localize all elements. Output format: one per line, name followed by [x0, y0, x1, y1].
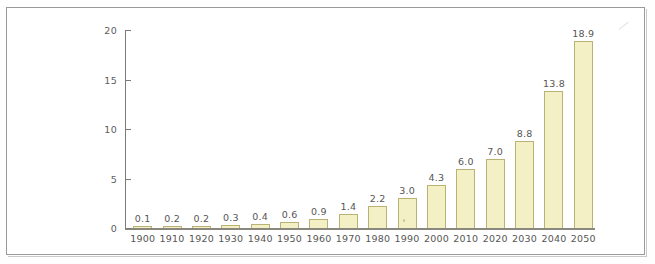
x-axis-tick-label: 1950: [277, 233, 302, 244]
bar-value-label: 1.4: [340, 201, 356, 212]
x-axis-tick-label: 2000: [424, 233, 449, 244]
bar: 1.4: [339, 214, 358, 228]
x-axis-tick-label: 1970: [336, 233, 361, 244]
bar-value-label: 0.3: [223, 212, 239, 223]
bar-value-label: 13.8: [543, 78, 565, 89]
x-axis-tick-label: 1900: [130, 233, 155, 244]
x-axis-tick-label: 1920: [189, 233, 214, 244]
x-axis-tick-label: 1910: [160, 233, 185, 244]
x-axis-line: [125, 228, 595, 230]
bar: 0.6: [280, 222, 299, 228]
page-background: 05101520 0.10.20.20.30.40.60.91.42.23.04…: [0, 0, 655, 264]
bar: 0.3: [221, 225, 240, 228]
bar: 18.9: [574, 41, 593, 228]
y-axis-tick: [126, 129, 131, 130]
bar: 0.9: [309, 219, 328, 228]
bar: 2.2: [368, 206, 387, 228]
y-axis-tick: [126, 228, 131, 229]
x-axis-tick-label: 1980: [365, 233, 390, 244]
bar-value-label: 3.0: [399, 185, 415, 196]
bar: 6.0: [456, 169, 475, 228]
bar: 7.0: [486, 159, 505, 228]
bar-value-label: 0.2: [164, 213, 180, 224]
bar-chart-plot-area: 05101520 0.10.20.20.30.40.60.91.42.23.04…: [125, 30, 595, 228]
bar: 0.2: [192, 226, 211, 228]
y-axis-tick: [126, 179, 131, 180]
bar: 13.8: [544, 91, 563, 228]
y-axis-tick-label: 5: [111, 173, 125, 184]
bar: 4.3: [427, 185, 446, 228]
bar: 0.4: [251, 224, 270, 228]
bar-value-label: 7.0: [487, 146, 503, 157]
x-axis-tick-label: 2010: [453, 233, 478, 244]
y-axis-tick-label: 15: [104, 74, 125, 85]
bar: 0.1: [133, 226, 152, 228]
x-axis-tick-label: 1990: [395, 233, 420, 244]
bar: 3.0: [398, 198, 417, 228]
x-axis-tick-label: 2040: [541, 233, 566, 244]
bar-value-label: 0.9: [311, 206, 327, 217]
bar-value-label: 2.2: [370, 193, 386, 204]
bar-value-label: 0.2: [194, 213, 210, 224]
bar-value-label: 0.4: [252, 211, 268, 222]
bar-value-label: 8.8: [517, 128, 533, 139]
bar-value-label: 0.1: [135, 213, 151, 224]
x-axis-tick-label: 1940: [248, 233, 273, 244]
x-axis-tick-label: 1960: [306, 233, 331, 244]
bar-value-label: 0.6: [282, 209, 298, 220]
y-axis-tick-label: 20: [104, 25, 125, 36]
x-axis-tick-label: 2020: [483, 233, 508, 244]
bar-value-label: 4.3: [429, 172, 445, 183]
scan-artifact: [619, 22, 645, 44]
bar: 0.2: [163, 226, 182, 228]
x-axis-tick-label: 1930: [218, 233, 243, 244]
x-axis-tick-label: 2050: [571, 233, 596, 244]
y-axis-tick-label: 10: [104, 124, 125, 135]
bar: 8.8: [515, 141, 534, 228]
y-axis-tick: [126, 30, 131, 31]
bar-value-label: 18.9: [572, 28, 594, 39]
y-axis-tick: [126, 80, 131, 81]
bar-value-label: 6.0: [458, 156, 474, 167]
y-axis-tick-label: 0: [111, 223, 125, 234]
x-axis-tick-label: 2030: [512, 233, 537, 244]
chart-frame-border: 05101520 0.10.20.20.30.40.60.91.42.23.04…: [6, 7, 645, 255]
